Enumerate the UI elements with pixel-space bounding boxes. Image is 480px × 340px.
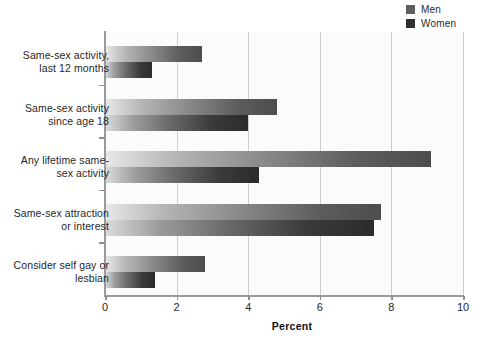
legend-label-men: Men [421, 4, 441, 15]
bar-group [105, 32, 463, 85]
category-label-line: Any lifetime same- [0, 154, 109, 167]
x-axis-tick [391, 296, 393, 300]
x-axis-title: Percent [0, 320, 480, 332]
legend-item-men: Men [406, 3, 476, 15]
y-axis-tick [99, 242, 106, 244]
gridline [463, 32, 464, 295]
legend-swatch-men-icon [406, 5, 415, 14]
bar-men [105, 99, 277, 115]
legend-label-women: Women [421, 18, 456, 29]
bar-group [105, 190, 463, 243]
bar-women [105, 272, 155, 288]
x-axis-tick-label: 10 [448, 301, 478, 313]
y-axis-tick [99, 85, 106, 87]
bar-women [105, 220, 374, 236]
bar-group [105, 137, 463, 190]
bar-men [105, 151, 431, 167]
plot-area [105, 32, 463, 295]
x-axis-title-text: Percent [272, 320, 313, 332]
chart-container: Men Women Same-sex activity,last 12 mont… [0, 0, 480, 340]
bar-men [105, 204, 381, 220]
category-label-line: Same-sex attraction [0, 207, 109, 220]
bar-group [105, 242, 463, 295]
category-label: Same-sex activitysince age 18 [0, 102, 109, 128]
legend-item-women: Women [406, 17, 476, 29]
bar-women [105, 62, 152, 78]
x-axis-tick [105, 296, 107, 300]
category-label: Any lifetime same-sex activity [0, 154, 109, 180]
category-label-line: since age 18 [0, 115, 109, 128]
category-label-line: Same-sex activity [0, 102, 109, 115]
x-axis-tick-label: 2 [162, 301, 192, 313]
y-axis-tick [99, 190, 106, 192]
y-axis-tick [99, 137, 106, 139]
x-axis-tick [248, 296, 250, 300]
x-axis-line [104, 295, 464, 297]
category-label-line: last 12 months [0, 62, 109, 75]
category-label: Same-sex activity,last 12 months [0, 49, 109, 75]
x-axis-tick-label: 4 [233, 301, 263, 313]
bar-women [105, 167, 259, 183]
legend-swatch-women-icon [406, 19, 415, 28]
x-axis-tick [320, 296, 322, 300]
category-label-line: sex activity [0, 167, 109, 180]
category-label-line: or interest [0, 220, 109, 233]
x-axis-tick-label: 6 [305, 301, 335, 313]
bar-women [105, 115, 248, 131]
x-axis-tick-label: 8 [376, 301, 406, 313]
category-label-line: Same-sex activity, [0, 49, 109, 62]
category-label-line: Consider self gay or [0, 259, 109, 272]
x-axis-tick-label: 0 [90, 301, 120, 313]
chart-legend: Men Women [406, 3, 476, 31]
x-axis-tick [177, 296, 179, 300]
category-label: Same-sex attractionor interest [0, 207, 109, 233]
bar-group [105, 85, 463, 138]
category-label: Consider self gay orlesbian [0, 259, 109, 285]
bar-men [105, 256, 205, 272]
bar-men [105, 46, 202, 62]
x-axis-tick [463, 296, 465, 300]
category-label-line: lesbian [0, 272, 109, 285]
